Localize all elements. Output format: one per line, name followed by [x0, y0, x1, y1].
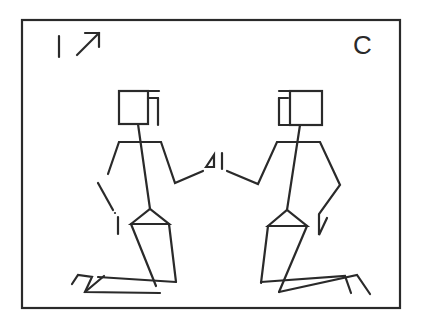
left-hip [131, 209, 169, 224]
left-figure [72, 91, 203, 293]
right-spine [287, 125, 300, 210]
border-frame [22, 20, 400, 308]
left-shin [98, 277, 176, 282]
left-spine [138, 124, 150, 209]
right-hip [268, 210, 307, 226]
north-east-arrow-icon [77, 33, 99, 55]
center-triangle [206, 155, 214, 167]
left-shoulders [108, 142, 203, 183]
label-right: C [353, 31, 372, 59]
left-head [119, 91, 148, 124]
right-figure [227, 91, 370, 294]
right-shoulders [227, 142, 340, 235]
left-back-arm-upper [98, 183, 113, 210]
right-head [290, 91, 322, 125]
